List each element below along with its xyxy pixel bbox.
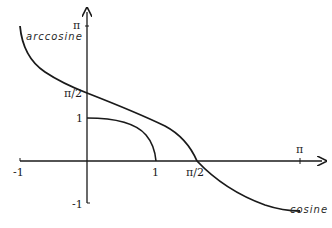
x-tick-label-pi: π — [296, 143, 303, 156]
arccosine-label: arccosine — [26, 31, 83, 42]
x-tick-label-neg1: -1 — [13, 166, 24, 179]
y-tick-label-neg1: -1 — [72, 198, 83, 211]
function-graph: -1 1 π/2 π π π/2 1 -1 arccosine cosine — [0, 0, 332, 228]
y-tick-label-1: 1 — [76, 112, 83, 125]
cosine-curve — [197, 161, 300, 211]
arccosine-curve — [20, 26, 197, 161]
x-tick-label-1: 1 — [152, 166, 159, 179]
y-tick-label-pi-half: π/2 — [64, 87, 82, 100]
x-tick-label-pi-half: π/2 — [186, 166, 204, 179]
cosine-label: cosine — [290, 204, 328, 215]
quarter-circle-curve — [87, 118, 156, 161]
